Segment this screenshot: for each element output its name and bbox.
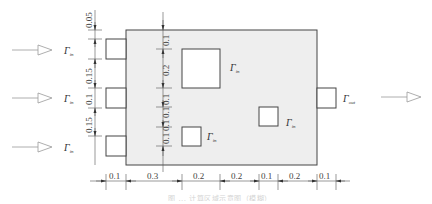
flow-domain-diagram: Γin Γin Γin Γout Γin Γin Γin 0.05 0.15 0… <box>0 0 432 204</box>
obstacle-large <box>182 49 220 88</box>
bottom-dim-5: 0.1 <box>261 171 272 181</box>
outlet-box <box>317 88 336 108</box>
inlet-box-bottom <box>106 136 126 156</box>
left-dim-3: 0.1 <box>84 94 94 105</box>
inlet-box-middle <box>106 88 126 108</box>
label-inlet-middle: Γin <box>63 93 74 105</box>
inner-dim-1: 0.1 <box>161 35 171 46</box>
bottom-dimension-chain <box>90 174 350 190</box>
bottom-dim-6: 0.2 <box>289 171 300 181</box>
left-dim-4: 0.15 <box>84 117 94 133</box>
inlet-arrow-middle-icon <box>12 93 52 103</box>
inlet-arrow-bottom-icon <box>12 142 52 152</box>
label-inlet-bottom: Γin <box>63 142 74 154</box>
figure-caption: 图 ... 计算区域示意图（模糊） <box>100 193 340 201</box>
inner-dim-2: 0.2 <box>161 65 171 76</box>
left-dim-1: 0.05 <box>84 12 94 28</box>
inner-dim-5: 0.1 <box>161 120 171 131</box>
obstacle-small-left <box>182 127 201 146</box>
bottom-dim-2: 0.3 <box>147 171 159 181</box>
left-dim-2: 0.15 <box>84 68 94 84</box>
inner-dim-3: 0.1 <box>161 94 171 105</box>
label-inlet-top: Γin <box>63 45 74 57</box>
outlet-arrow-icon <box>381 92 421 102</box>
bottom-dim-3: 0.2 <box>193 171 204 181</box>
inner-dim-6: 0.1 <box>161 133 171 144</box>
bottom-dim-1: 0.1 <box>109 171 120 181</box>
obstacle-small-right <box>259 107 278 126</box>
bottom-dim-4: 0.2 <box>231 171 242 181</box>
bottom-dim-7: 0.1 <box>319 171 330 181</box>
domain-rectangle <box>126 30 317 165</box>
left-dimension-chain <box>88 10 102 165</box>
inlet-arrow-top-icon <box>12 45 52 55</box>
inlet-box-top <box>106 39 126 59</box>
label-outlet: Γout <box>342 93 356 105</box>
inner-dim-4: 0.1 <box>161 107 171 118</box>
